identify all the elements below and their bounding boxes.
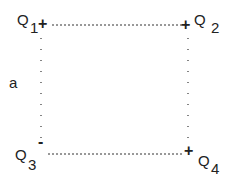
charge-q4-subscript: 4 bbox=[211, 161, 219, 176]
charge-q2-label: Q bbox=[194, 12, 206, 27]
charge-q1-label: Q bbox=[17, 12, 29, 27]
charge-q2-subscript: 2 bbox=[211, 20, 219, 35]
plus-sign-icon: + bbox=[181, 17, 190, 33]
minus-sign-icon: - bbox=[38, 134, 43, 150]
charge-q3-label: Q bbox=[15, 147, 27, 162]
plus-sign-icon: + bbox=[38, 16, 47, 32]
charge-q3-subscript: 3 bbox=[28, 157, 36, 172]
side-length-label: a bbox=[9, 75, 17, 90]
charge-q4-label: Q bbox=[198, 153, 210, 168]
plus-sign-icon: + bbox=[184, 143, 193, 159]
